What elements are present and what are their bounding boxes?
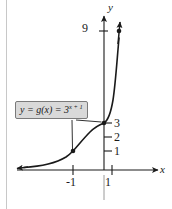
y-axis-label: y [108, 2, 113, 13]
x-tick-label-neg1: -1 [66, 176, 76, 188]
callout-exponent-text: x + 1 [69, 103, 83, 110]
point-0-3 [102, 121, 107, 126]
curve-left-arrow [17, 167, 28, 169]
x-tick-label-pos1: 1 [105, 176, 111, 188]
point-1-9 [117, 29, 122, 34]
y-tick-label-1: 1 [114, 145, 120, 157]
function-equation-callout: y = g(x) = 3x + 1 [15, 101, 88, 119]
callout-leader-to-point-0-3 [76, 120, 102, 122]
point-neg1-1 [71, 149, 76, 154]
callout-base-text: y = g(x) = 3 [20, 104, 69, 115]
y-tick-label-9: 9 [82, 22, 88, 34]
callout-leader-to-point-neg1-1 [72, 120, 73, 149]
y-tick-label-3: 3 [114, 117, 120, 129]
x-axis-label: x [160, 164, 165, 175]
y-tick-label-2: 2 [114, 131, 120, 143]
